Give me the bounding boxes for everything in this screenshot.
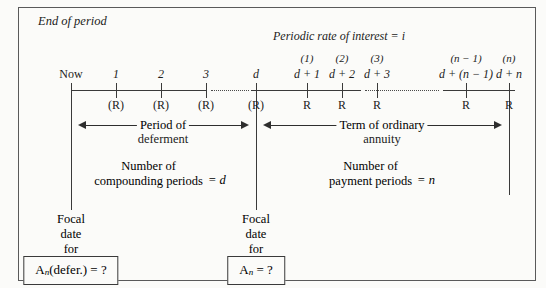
period-label-d-plus-1: d + 1 [294,68,320,82]
deferment-arrow-head-right [241,121,249,129]
answer-right-rest: = ? [253,262,273,277]
focal-left-line2: date [57,227,85,242]
period-label-1: 1 [113,68,119,82]
cashflow-label-2: (R) [153,99,169,113]
annuity-bracket: Term of ordinary [263,119,502,131]
focal-line-now [71,97,72,210]
focal-line-d [256,97,257,210]
payment-number-2: (2) [336,52,349,65]
focal-date-label-right: Focal date for [242,212,270,257]
cashflow-label-d: (R) [248,99,264,113]
cashflow-label-3: (R) [198,99,214,113]
axis-segment-mid [251,90,361,91]
cashflow-label-d-plus-3: R [373,99,381,113]
axis-segment-left [71,90,207,91]
cashflow-label-d-plus-2: R [338,99,346,113]
period-label-now: Now [59,68,82,82]
deferment-title-line1: Period of [137,118,189,133]
annuity-count-line1: Number of [343,159,398,174]
tick-d2 [342,83,343,98]
end-of-period-label: End of period [38,14,107,28]
period-label-d: d [253,68,259,82]
deferment-count-equals: = d [208,173,226,189]
annuity-title-line1: Term of ordinary [336,118,427,133]
deferred-annuity-timeline-figure: End of period Periodic rate of interest … [0,0,546,288]
period-label-d-plus-n: d + n [496,68,522,82]
focal-right-line1: Focal [242,212,270,227]
cashflow-label-d-plus-1: R [303,99,311,113]
deferment-count-line1: Number of [121,159,176,174]
deferment-count-line2: compounding periods [94,174,203,189]
annuity-period-count: Number of payment periods = n [329,159,435,189]
period-label-d-plus-2: d + 2 [329,68,355,82]
annuity-count-line2: payment periods [329,174,412,189]
period-label-d-plus-n-1: d + (n − 1) [439,68,493,82]
payment-number-3: (3) [371,52,384,65]
payment-number-n: (n) [503,52,516,65]
answer-right-symbol: A [239,262,248,277]
focal-right-line3: for [242,242,270,257]
cashflow-label-d-plus-n-1: R [462,99,470,113]
tick-now [71,83,72,98]
cashflow-label-d-plus-n: R [505,99,513,113]
period-label-3: 3 [203,68,209,82]
answer-left-symbol: A [35,262,44,277]
answer-left-rest: (defer.) = ? [49,262,107,277]
tick-dn1 [466,83,467,98]
tick-1 [116,83,117,98]
figure-border [18,7,536,281]
axis-dots-left [211,90,249,91]
payment-number-n-1: (n − 1) [450,52,481,65]
deferment-bracket: Period of [78,119,249,131]
period-label-d-plus-3: d + 3 [364,68,390,82]
focal-right-line2: date [242,227,270,242]
periodic-rate-label: Periodic rate of interest = i [273,30,405,44]
tick-d [256,83,257,98]
cashflow-label-1: (R) [108,99,124,113]
period-label-2: 2 [158,68,164,82]
tick-2 [161,83,162,98]
payment-number-1: (1) [301,52,314,65]
deferment-period-count: Number of compounding periods = d [94,159,225,189]
answer-box-deferred-annuity[interactable]: An(defer.) = ? [23,256,118,285]
axis-segment-right [443,90,515,91]
tick-d1 [307,83,308,98]
focal-date-label-left: Focal date for [57,212,85,257]
tick-dn [509,83,510,98]
tick-3 [206,83,207,98]
annuity-arrow-head-right [494,121,502,129]
tick-d3 [377,83,378,98]
annuity-title-line2: annuity [363,132,401,146]
deferment-title-line2: deferment [138,132,189,146]
annuity-count-equals: = n [417,173,435,189]
focal-left-line3: for [57,242,85,257]
focal-left-line1: Focal [57,212,85,227]
answer-box-ordinary-annuity[interactable]: An = ? [227,256,285,285]
